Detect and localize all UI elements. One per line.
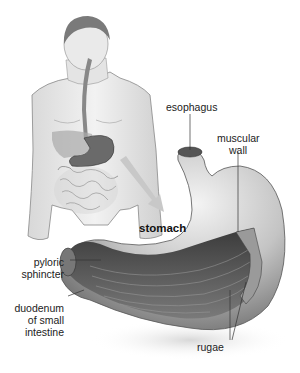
- label-duodenum-line3: intestine: [4, 326, 64, 338]
- label-pyloric-line2: sphincter: [4, 268, 64, 280]
- label-duodenum-line1: duodenum: [4, 302, 64, 314]
- label-pyloric-line1: pyloric: [4, 256, 64, 268]
- label-stomach: stomach: [139, 222, 186, 234]
- label-duodenum: duodenum of small intestine: [4, 302, 64, 338]
- human-figure: [28, 16, 162, 240]
- label-pyloric-sphincter: pyloric sphincter: [4, 256, 64, 280]
- label-rugae: rugae: [197, 341, 224, 353]
- label-muscular-wall-line2: wall: [217, 144, 259, 156]
- label-esophagus: esophagus: [166, 101, 217, 113]
- label-duodenum-line2: of small: [4, 314, 64, 326]
- label-muscular-wall: muscular wall: [217, 132, 259, 156]
- label-muscular-wall-line1: muscular: [217, 132, 259, 144]
